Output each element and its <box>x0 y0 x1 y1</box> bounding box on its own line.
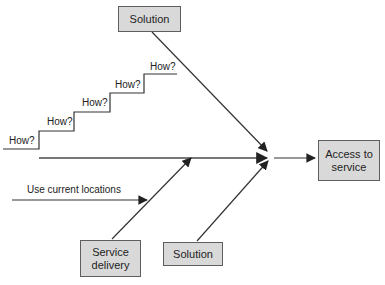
bottom-solution-arrow <box>197 161 268 241</box>
how-label-1: How? <box>9 135 35 146</box>
how-label-4: How? <box>115 79 141 90</box>
solution-effect-diagram: Solution Service delivery Solution Acces… <box>0 0 385 285</box>
how-label-2: How? <box>47 116 73 127</box>
use-current-locations-label: Use current locations <box>27 184 121 195</box>
how-label-3: How? <box>82 97 108 108</box>
how-label-5: How? <box>150 61 176 72</box>
service-delivery-arrow <box>112 158 191 239</box>
service-delivery-box: Service delivery <box>80 240 141 277</box>
solution-box-bottom: Solution <box>163 242 223 266</box>
top-solution-arrow <box>152 32 267 151</box>
solution-box-top: Solution <box>118 6 181 32</box>
access-to-service-box: Access to service <box>318 140 380 181</box>
